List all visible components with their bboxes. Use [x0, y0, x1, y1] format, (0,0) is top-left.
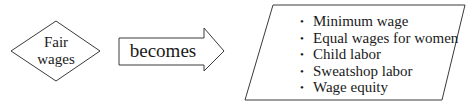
bullet-icon: • [300, 30, 304, 47]
outcome-list: •Minimum wage •Equal wages for women •Ch… [300, 13, 458, 96]
bullet-icon: • [300, 46, 304, 63]
list-item: •Minimum wage [300, 13, 458, 30]
list-item: •Equal wages for women [300, 30, 458, 47]
diamond-label-line-1: Fair [20, 34, 92, 51]
arrow-label: becomes [119, 40, 207, 62]
bullet-icon: • [300, 13, 304, 30]
list-item: •Sweatshop labor [300, 63, 458, 80]
bullet-icon: • [300, 63, 304, 80]
bullet-icon: • [300, 79, 304, 96]
diamond-label-line-2: wages [20, 51, 92, 68]
diamond-label: Fair wages [20, 34, 92, 68]
list-item: •Child labor [300, 46, 458, 63]
list-item: •Wage equity [300, 79, 458, 96]
